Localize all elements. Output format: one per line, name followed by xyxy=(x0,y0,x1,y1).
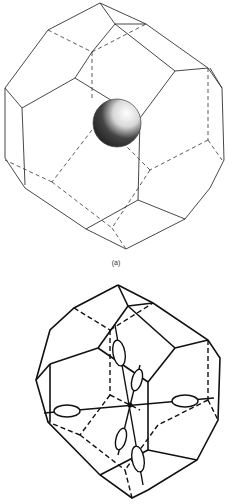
central-sphere xyxy=(93,99,141,147)
figure-a-truncated-octahedron-sphere xyxy=(0,0,232,252)
figure-a-caption: (a) xyxy=(0,259,232,266)
figure-b-truncated-octahedron-orbitals xyxy=(0,270,232,504)
